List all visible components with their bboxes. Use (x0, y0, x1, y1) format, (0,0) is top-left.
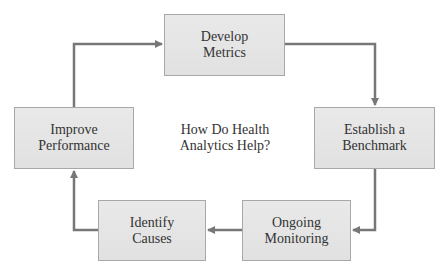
step-ongoing-monitoring: Ongoing Monitoring (242, 200, 351, 261)
step-label-line1: Improve (50, 122, 97, 138)
step-establish-benchmark: Establish a Benchmark (314, 107, 435, 169)
step-label-line2: Performance (38, 138, 110, 154)
arrow-identify-to-improve (74, 171, 98, 230)
arrow-improve-to-develop (74, 44, 162, 107)
step-label-line1: Establish a (344, 122, 405, 138)
center-question-line2: Analytics Help? (170, 138, 280, 154)
step-develop-metrics: Develop Metrics (164, 14, 285, 76)
step-identify-causes: Identify Causes (98, 200, 206, 261)
step-label-line2: Causes (132, 231, 172, 247)
step-label-line1: Identify (130, 215, 174, 231)
health-analytics-cycle-diagram: Develop Metrics Establish a Benchmark On… (0, 0, 447, 276)
step-label-line2: Benchmark (342, 138, 407, 154)
center-question-line1: How Do Health (170, 122, 280, 138)
arrow-develop-to-establish (285, 44, 375, 105)
step-label-line1: Ongoing (272, 215, 321, 231)
step-improve-performance: Improve Performance (14, 107, 134, 169)
step-label-line1: Develop (201, 29, 248, 45)
arrow-establish-to-ongoing (353, 169, 375, 230)
step-label-line2: Metrics (203, 45, 246, 61)
center-question: How Do Health Analytics Help? (170, 122, 280, 154)
step-label-line2: Monitoring (265, 231, 329, 247)
